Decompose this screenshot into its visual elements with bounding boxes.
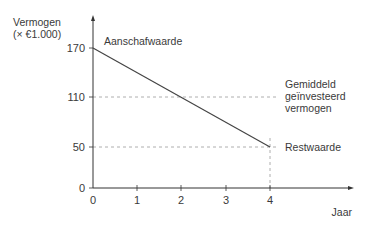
x-tick-3: 3 <box>223 194 229 206</box>
y-tick-50: 50 <box>73 141 85 153</box>
x-axis-arrow-icon <box>348 186 354 190</box>
y-axis-label-line1: Vermogen <box>13 16 61 28</box>
annotation-gemiddeld-line1: Gemiddeld <box>285 78 336 90</box>
annotation-aanschafwaarde: Aanschafwaarde <box>104 35 182 47</box>
x-tick-2: 2 <box>178 194 184 206</box>
y-tick-110: 110 <box>67 91 85 103</box>
annotation-gemiddeld-line2: geïnvesteerd <box>285 90 346 102</box>
y-axis-arrow-icon <box>91 15 95 21</box>
x-tick-0: 0 <box>90 194 96 206</box>
x-tick-1: 1 <box>134 194 140 206</box>
depreciation-line <box>93 48 270 147</box>
annotation-restwaarde: Restwaarde <box>285 141 341 153</box>
annotation-gemiddeld-line3: vermogen <box>285 102 332 114</box>
chart: Vermogen (× €1.000) 170 110 50 0 0 1 2 3… <box>0 0 365 226</box>
y-tick-170: 170 <box>67 42 85 54</box>
x-tick-4: 4 <box>267 194 273 206</box>
y-tick-0: 0 <box>79 182 85 194</box>
x-axis-label: Jaar <box>332 206 353 218</box>
y-axis-label-line2: (× €1.000) <box>13 28 61 40</box>
